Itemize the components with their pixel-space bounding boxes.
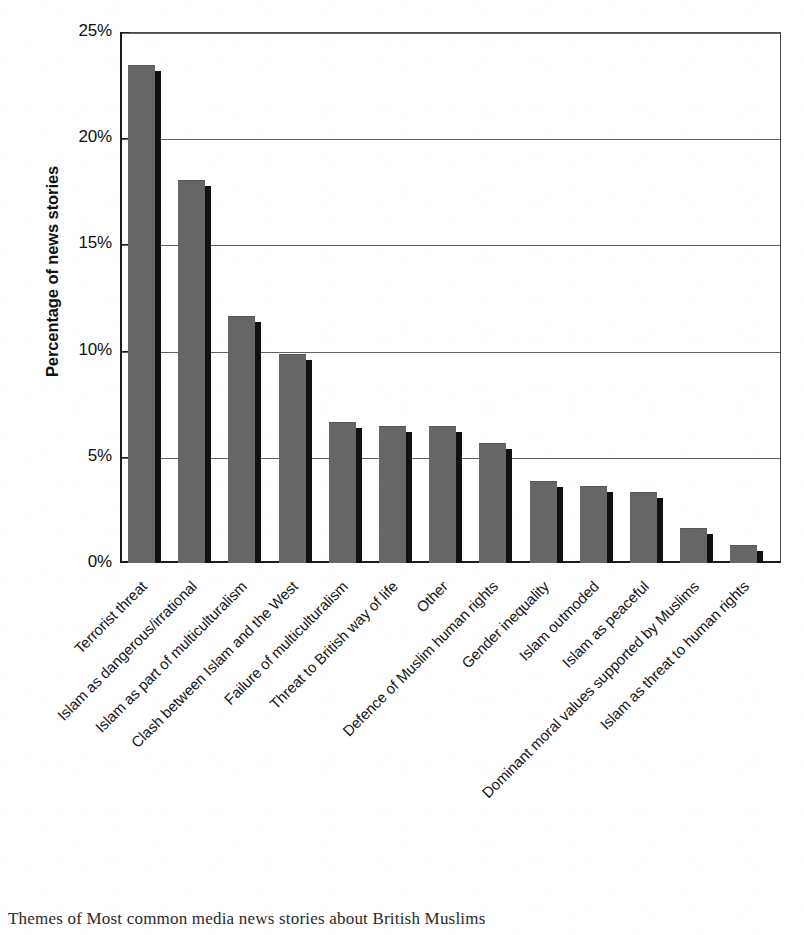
- x-label-13: Islam as threat to human rights: [316, 577, 752, 935]
- bar-shadow-3: [255, 322, 261, 563]
- bar-2: [178, 32, 211, 563]
- bar-shadow-8: [506, 449, 512, 563]
- bar-shadow-9: [557, 487, 563, 563]
- bar-shadow-7: [456, 432, 462, 563]
- bar-shadow-5: [356, 428, 362, 563]
- bar-body-12: [680, 528, 707, 563]
- bar-5: [329, 32, 362, 563]
- bar-4: [279, 32, 312, 563]
- bar-body-8: [479, 443, 506, 563]
- x-label-3: Islam as part of multiculturalism: [0, 577, 250, 935]
- x-label-2: Islam as dangerous/irrational: [0, 577, 200, 935]
- bar-shadow-2: [205, 186, 211, 563]
- y-tick-label-20: 20%: [42, 127, 112, 147]
- bar-7: [429, 32, 462, 563]
- bar-6: [379, 32, 412, 563]
- bar-body-11: [630, 492, 657, 563]
- bar-12: [680, 32, 713, 563]
- y-tick-label-5: 5%: [42, 446, 112, 466]
- bar-body-6: [379, 426, 406, 563]
- bar-9: [530, 32, 563, 563]
- bar-10: [580, 32, 613, 563]
- x-label-10: Islam outmoded: [166, 577, 602, 935]
- x-label-12: Dominant moral values supported by Musli…: [266, 577, 702, 935]
- bar-shadow-4: [306, 360, 312, 563]
- x-label-8: Defence of Muslim human rights: [65, 577, 501, 935]
- bar-shadow-11: [657, 498, 663, 563]
- y-axis-tick-labels: 0%5%10%15%20%25%: [36, 32, 112, 563]
- bar-shadow-10: [607, 492, 613, 563]
- x-label-6: Threat to British way of life: [0, 577, 401, 935]
- bar-body-5: [329, 422, 356, 563]
- x-label-4: Clash between Islam and the West: [0, 577, 301, 935]
- y-tick-label-25: 25%: [42, 21, 112, 41]
- y-tick-label-10: 10%: [42, 340, 112, 360]
- bar-body-4: [279, 354, 306, 563]
- bar-body-13: [730, 545, 757, 563]
- bar-body-9: [530, 481, 557, 563]
- y-tick-label-15: 15%: [42, 233, 112, 253]
- figure-caption: Themes of Most common media news stories…: [8, 909, 798, 929]
- bar-11: [630, 32, 663, 563]
- x-label-7: Other: [15, 577, 451, 935]
- bar-chart-figure: Percentage of news stories 0%5%10%15%20%…: [0, 0, 804, 935]
- bar-body-1: [128, 65, 155, 563]
- bar-shadow-6: [406, 432, 412, 563]
- bar-body-7: [429, 426, 456, 563]
- bar-1: [128, 32, 161, 563]
- bar-body-3: [228, 316, 255, 563]
- x-label-5: Failure of multiculturalism: [0, 577, 351, 935]
- bar-series: [120, 32, 781, 563]
- bar-shadow-13: [757, 551, 763, 563]
- bar-body-10: [580, 486, 607, 563]
- bar-13: [730, 32, 763, 563]
- bar-shadow-1: [155, 71, 161, 563]
- bar-shadow-12: [707, 534, 713, 563]
- y-tick-label-0: 0%: [42, 552, 112, 572]
- bar-8: [479, 32, 512, 563]
- x-label-1: Terrorist threat: [0, 577, 150, 935]
- bar-body-2: [178, 180, 205, 563]
- x-label-9: Gender inequality: [115, 577, 551, 935]
- bar-3: [228, 32, 261, 563]
- x-label-11: Islam as peaceful: [216, 577, 652, 935]
